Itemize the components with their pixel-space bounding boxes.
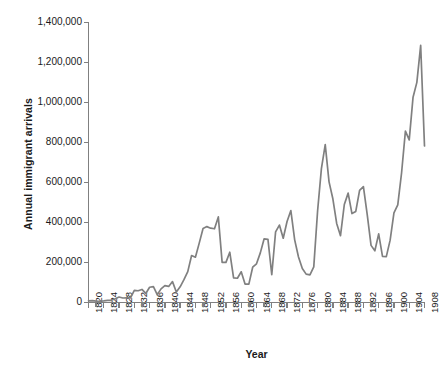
plot-area	[0, 0, 441, 369]
immigration-line-chart: Annual immigrant arrivals Year 1,400,000…	[0, 0, 441, 369]
axis-lines	[89, 22, 426, 303]
immigration-series-line	[89, 45, 425, 301]
